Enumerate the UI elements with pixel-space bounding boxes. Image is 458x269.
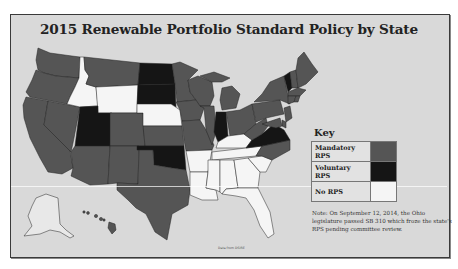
- legend-swatch-none: [371, 182, 397, 202]
- state-wy: [96, 85, 138, 113]
- legend-label: Voluntary RPS: [312, 162, 371, 182]
- state-de: [282, 120, 286, 128]
- data-source: Data from DSIRE: [218, 246, 245, 250]
- key-title: Key: [314, 127, 335, 138]
- state-co: [110, 113, 145, 146]
- state-mi: [220, 86, 240, 110]
- legend-label: Mandatory RPS: [312, 142, 371, 162]
- legend-swatch-mandatory: [371, 142, 397, 162]
- state-ms: [206, 160, 220, 192]
- state-nd: [138, 63, 175, 85]
- state-me: [296, 52, 318, 88]
- state-az: [71, 146, 110, 185]
- state-sd: [137, 84, 176, 107]
- state-mt: [84, 57, 140, 87]
- state-nj: [284, 106, 292, 122]
- legend-label: No RPS: [312, 182, 371, 202]
- state-ks: [143, 126, 184, 146]
- state-ne: [137, 104, 182, 126]
- legend-swatch-voluntary: [371, 162, 397, 182]
- legend-row-none: No RPS: [312, 182, 397, 202]
- legend-row-voluntary: Voluntary RPS: [312, 162, 397, 182]
- legend-table: Mandatory RPS Voluntary RPS No RPS: [311, 141, 397, 202]
- state-hi: [83, 211, 116, 234]
- state-nm: [108, 146, 139, 184]
- legend-row-mandatory: Mandatory RPS: [312, 142, 397, 162]
- state-ak: [24, 194, 74, 238]
- state-fl: [222, 188, 274, 238]
- ohio-note: Note: On September 12, 2014, the Ohio le…: [312, 209, 452, 233]
- state-ny: [254, 76, 290, 104]
